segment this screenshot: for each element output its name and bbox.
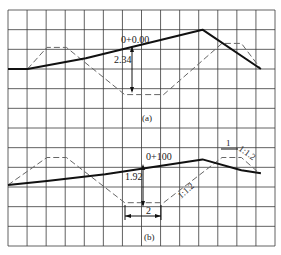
- berm-label-b: 1: [226, 138, 231, 148]
- station-label-a: 0+0.00: [121, 34, 149, 45]
- slope-label-left-b: 1:1.2: [176, 181, 196, 201]
- width-label-b: 2: [146, 205, 151, 216]
- slope-label-right-b: 1:1.2: [237, 143, 258, 162]
- cross-section-figure: 0+0.00 2.34 (a) 0+100 1.92 2 1 1:1.2 1:1…: [0, 0, 281, 255]
- arrow-down-icon: [130, 87, 134, 93]
- caption-a: (a): [142, 113, 152, 123]
- caption-b: (b): [144, 232, 155, 242]
- station-label-b: 0+100: [146, 151, 172, 162]
- depth-label-a: 2.34: [114, 54, 132, 65]
- arrow-left-icon: [125, 214, 131, 218]
- depth-label-b: 1.92: [125, 171, 143, 182]
- arrow-right-icon: [155, 214, 161, 218]
